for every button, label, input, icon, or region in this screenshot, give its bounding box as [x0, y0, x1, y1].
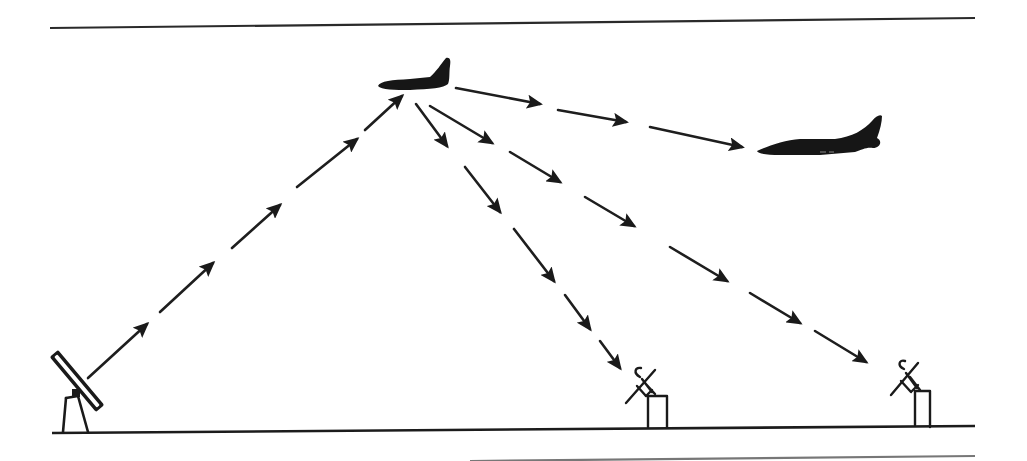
- receiver-dish-2-icon: [891, 361, 930, 427]
- relay-aircraft-icon: [378, 58, 450, 90]
- aircraft-link-arrows: [456, 88, 742, 147]
- receiver-aircraft-icon: [757, 115, 882, 155]
- ground-line: [52, 426, 975, 433]
- relay-diagram: [0, 0, 1027, 461]
- bottom-rule-line: [470, 456, 975, 461]
- dish-1-link-arrows: [416, 104, 620, 368]
- transmitter-antenna-icon: [50, 350, 105, 432]
- uplink-arrows: [88, 96, 402, 378]
- receiver-dish-1-icon: [626, 368, 667, 427]
- top-rule-line: [50, 18, 975, 28]
